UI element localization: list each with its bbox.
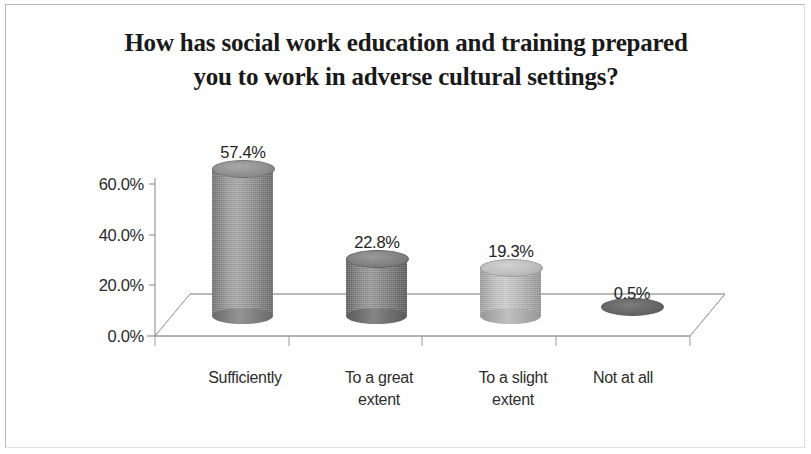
figure-page: How has social work education and traini… [0,0,811,454]
y-axis-label-60: 60.0% [72,175,144,194]
y-axis-label-40: 40.0% [72,226,144,245]
bar-body-1 [212,168,273,316]
y-axis-label-0: 0.0% [72,327,144,346]
bar-sufficiently [212,168,273,316]
chart-plot-area: 60.0% 40.0% 20.0% 0.0% [0,0,811,454]
category-label-to-a-slight-extent-line-2: extent [430,389,596,411]
data-label-to-a-great-extent: 22.8% [336,233,418,252]
bar-to-a-great-extent [346,258,407,316]
data-label-sufficiently: 57.4% [202,143,284,162]
data-label-not-at-all: 0.5% [591,284,673,303]
bar-bottom-ellipse-3 [480,308,541,324]
data-label-to-a-slight-extent: 19.3% [470,242,552,261]
category-label-not-at-all-line-1: Not at all [540,367,706,389]
bar-top-ellipse-2 [346,250,409,268]
y-axis-label-20: 20.0% [72,276,144,295]
category-label-not-at-all: Not at all [540,367,706,389]
bar-to-a-slight-extent [480,267,541,316]
bar-not-at-all [601,305,662,307]
bar-bottom-ellipse-2 [346,308,407,324]
bar-top-ellipse-3 [480,259,543,277]
bar-top-ellipse-1 [212,160,275,178]
bar-bottom-ellipse-1 [212,308,273,324]
